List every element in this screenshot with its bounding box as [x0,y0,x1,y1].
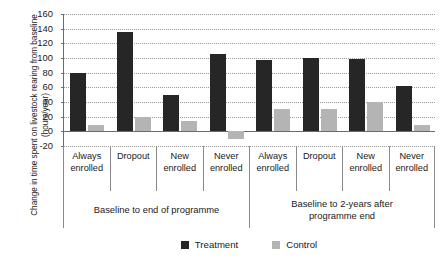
bar-treatment-3 [163,95,179,132]
y-axis-tick-label: 60 [13,82,53,91]
legend-item-control[interactable]: Control [272,240,317,250]
y-axis-tick-label: 20 [13,112,53,121]
plot-area: 160140120100806040200-20 [63,14,435,146]
group-label-text: Baseline to end of programme [94,204,220,216]
group-label-cell: Baseline to end of programme [63,191,249,228]
category-label-text: Neverenrolled [395,151,428,174]
category-label-text: Dropout [303,151,336,163]
legend-label: Treatment [195,240,238,250]
category-label-text: Newenrolled [349,151,382,174]
bar-control-4 [228,131,244,138]
bar-control-7 [367,102,383,131]
y-axis-tick-label: 40 [13,97,53,106]
legend-item-treatment[interactable]: Treatment [181,240,238,250]
y-axis-tick-label: 100 [13,53,53,62]
bar-treatment-4 [210,54,226,131]
category-label-text: Newenrolled [163,151,196,174]
bar-control-2 [135,117,151,132]
y-axis-tick-label: 140 [13,24,53,33]
category-label-cell: Dropout [296,146,343,191]
category-label-cell: Neverenrolled [203,146,250,191]
bar-chart-figure: Change in time spent on livestock rearin… [0,0,442,266]
bar-control-5 [274,109,290,131]
chart-legend: TreatmentControl [63,234,435,256]
category-label-cell: Alwaysenrolled [63,146,110,191]
bar-treatment-6 [303,58,319,131]
bar-treatment-1 [70,73,86,132]
legend-swatch-icon [181,241,189,249]
y-axis-tick-label: -20 [13,141,53,150]
category-label-text: Alwaysenrolled [70,151,103,174]
group-labels-band: Baseline to end of programmeBaseline to … [63,191,435,228]
legend-swatch-icon [272,241,280,249]
bar-treatment-7 [349,59,365,131]
category-label-cell: Newenrolled [156,146,203,191]
category-label-text: Alwaysenrolled [256,151,289,174]
bar-control-3 [181,121,197,131]
bar-control-6 [321,109,337,131]
bar-treatment-2 [117,32,133,132]
bar-treatment-5 [256,60,272,131]
group-label-text: Baseline to 2-years afterprogramme end [291,198,393,221]
category-label-cell: Alwaysenrolled [249,146,296,191]
category-label-cell: Newenrolled [342,146,389,191]
group-label-cell: Baseline to 2-years afterprogramme end [249,191,435,228]
y-axis-tick-label: 0 [13,126,53,135]
legend-label: Control [286,240,317,250]
category-labels-band: AlwaysenrolledDropoutNewenrolledNeverenr… [63,146,435,191]
category-label-text: Dropout [117,151,150,163]
category-label-cell: Dropout [110,146,157,191]
category-label-cell: Neverenrolled [389,146,436,191]
bars-layer [64,14,435,146]
category-label-text: Neverenrolled [210,151,243,174]
y-axis-tick-label: 160 [13,9,53,18]
bar-treatment-8 [396,86,412,131]
y-axis-tick-label: 80 [13,68,53,77]
y-axis-tick-label: 120 [13,38,53,47]
bar-control-1 [88,125,104,131]
bar-control-8 [414,125,430,131]
